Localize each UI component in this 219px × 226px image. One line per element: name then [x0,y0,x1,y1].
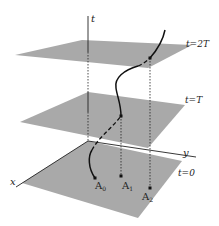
spacetime-diagram: t x y t=2T t=T t=0 A0 A1 A2 [0,0,219,226]
plane-tT [20,92,185,148]
point-A1 [120,175,123,178]
x-axis-label: x [10,176,16,187]
point-top [149,57,152,60]
y-axis-label: y [182,147,189,158]
plane-label-T: t=T [185,95,203,105]
point-A2 [149,187,152,190]
plane-label-0: t=0 [178,168,195,178]
point-middle [120,115,123,118]
diagram-svg: t x y t=2T t=T t=0 A0 A1 A2 [0,0,219,226]
plane-label-2T: t=2T [186,39,210,49]
plane-t2T [15,40,192,68]
t-axis-label: t [91,13,96,24]
